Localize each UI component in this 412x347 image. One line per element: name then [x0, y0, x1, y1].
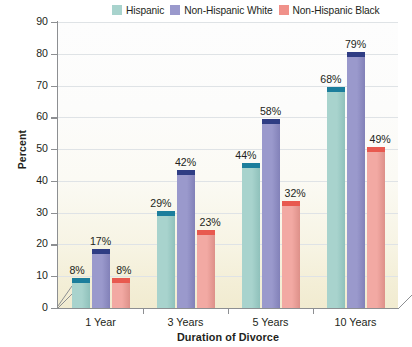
bar-front-face — [282, 206, 300, 308]
bar-front-face — [327, 92, 345, 308]
bar-front-face — [92, 254, 110, 308]
x-axis-tick — [228, 308, 229, 314]
bar-chart: Hispanic Non-Hispanic White Non-Hispanic… — [0, 0, 412, 347]
bar-value-label: 79% — [345, 38, 366, 50]
x-axis-tick-label: 1 Year — [61, 316, 141, 328]
plot-area: 8%17%8%29%42%23%44%58%32%68%79%49% — [58, 22, 398, 308]
bar-top-face — [157, 211, 175, 216]
bar-value-label: 8% — [69, 264, 84, 276]
gridline — [58, 22, 398, 23]
y-axis-tick-label: 60 — [8, 110, 48, 122]
bar-front-face — [177, 175, 195, 308]
bar-value-label: 23% — [200, 216, 221, 228]
bar-front-face — [242, 168, 260, 308]
y-axis-tick — [51, 213, 57, 214]
bar: 32% — [282, 206, 300, 308]
bar-top-face — [112, 278, 130, 283]
bar: 23% — [197, 235, 215, 308]
chart-legend: Hispanic Non-Hispanic White Non-Hispanic… — [112, 2, 412, 18]
legend-item-non-hispanic-white: Non-Hispanic White — [170, 5, 272, 16]
bar-value-label: 44% — [235, 149, 256, 161]
bar: 49% — [367, 152, 385, 308]
y-axis-tick — [51, 308, 57, 309]
y-axis-tick-label: 30 — [8, 206, 48, 218]
bar: 42% — [177, 175, 195, 308]
bar-value-label: 42% — [175, 156, 196, 168]
legend-item-non-hispanic-black: Non-Hispanic Black — [279, 5, 380, 16]
legend-swatch-icon-non-hispanic-black — [279, 5, 289, 15]
y-axis-tick-label: 40 — [8, 174, 48, 186]
bar-top-face — [262, 119, 280, 124]
bar-front-face — [197, 235, 215, 308]
bar-top-face — [367, 147, 385, 152]
bar-top-face — [197, 230, 215, 235]
bar-value-label: 29% — [150, 197, 171, 209]
bar-top-face — [72, 278, 90, 283]
bar-front-face — [347, 57, 365, 308]
y-axis-tick — [51, 181, 57, 182]
x-axis-tick — [313, 308, 314, 314]
bar-value-label: 17% — [90, 235, 111, 247]
y-axis-title: Percent — [18, 130, 29, 170]
y-axis-tick-label: 10 — [8, 269, 48, 281]
bar-top-face — [347, 52, 365, 57]
y-axis-tick-label: 90 — [8, 15, 48, 27]
bar-top-face — [242, 163, 260, 168]
x-axis-title: Duration of Divorce — [58, 331, 398, 343]
bar: 79% — [347, 57, 365, 308]
bar-value-label: 8% — [116, 264, 131, 276]
y-axis-tick — [51, 54, 57, 55]
y-axis-tick-label: 20 — [8, 237, 48, 249]
x-axis-tick-label: 3 Years — [146, 316, 226, 328]
x-axis-tick-label: 10 Years — [316, 316, 396, 328]
bar-value-label: 58% — [260, 105, 281, 117]
bar-top-face — [92, 249, 110, 254]
bar: 68% — [327, 92, 345, 308]
bar: 58% — [262, 124, 280, 308]
bar: 8% — [112, 283, 130, 308]
legend-label-non-hispanic-black: Non-Hispanic Black — [293, 5, 380, 16]
x-axis-tick — [143, 308, 144, 314]
bar: 17% — [92, 254, 110, 308]
y-axis-line — [57, 21, 58, 309]
bar-front-face — [112, 283, 130, 308]
bar-value-label: 68% — [320, 73, 341, 85]
y-axis-tick — [51, 86, 57, 87]
bar-top-face — [282, 201, 300, 206]
legend-label-hispanic: Hispanic — [126, 5, 164, 16]
bar: 44% — [242, 168, 260, 308]
bar-front-face — [262, 124, 280, 308]
bar-top-face — [327, 87, 345, 92]
y-axis-tick — [51, 117, 57, 118]
y-axis-tick-label: 80 — [8, 47, 48, 59]
x-axis-tick-label: 5 Years — [231, 316, 311, 328]
bar-value-label: 49% — [370, 133, 391, 145]
legend-swatch-icon-non-hispanic-white — [170, 5, 180, 15]
legend-item-hispanic: Hispanic — [112, 5, 164, 16]
bar: 29% — [157, 216, 175, 308]
bar-front-face — [72, 283, 90, 308]
legend-label-non-hispanic-white: Non-Hispanic White — [184, 5, 272, 16]
bar-front-face — [367, 152, 385, 308]
legend-swatch-icon-hispanic — [112, 5, 122, 15]
y-axis-tick — [51, 22, 57, 23]
bar-front-face — [157, 216, 175, 308]
bar-top-face — [177, 170, 195, 175]
y-axis-title-wrap: Percent — [0, 139, 53, 157]
y-axis-tick — [51, 276, 57, 277]
y-axis-tick-label: 70 — [8, 79, 48, 91]
y-axis-tick-label: 0 — [8, 301, 48, 313]
bar: 8% — [72, 283, 90, 308]
y-axis-tick — [51, 244, 57, 245]
bar-value-label: 32% — [285, 187, 306, 199]
